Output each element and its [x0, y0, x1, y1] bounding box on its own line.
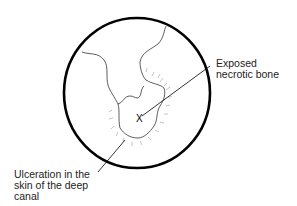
label-bone: Exposed necrotic bone [216, 58, 279, 80]
label-bone-line-2: necrotic bone [216, 69, 279, 80]
canal-outline [82, 26, 166, 138]
label-ulcer-line-3: canal [14, 191, 90, 202]
bone-marker: X [136, 113, 143, 124]
bone-leader-line [142, 66, 210, 116]
view-circle [64, 18, 210, 168]
label-ulceration: Ulceration in the skin of the deep canal [14, 169, 90, 202]
canal-inner [118, 86, 144, 104]
